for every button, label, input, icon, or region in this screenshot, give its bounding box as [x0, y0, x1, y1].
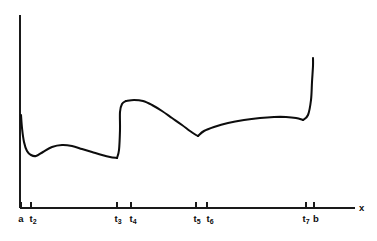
- tick-label-subscript-t3: 3: [118, 218, 122, 225]
- figure-container: at2t3t4t5t6t7b x: [0, 0, 377, 241]
- x-axis-tick-label-t4: t4: [129, 214, 136, 224]
- tick-label-subscript-t2: 2: [33, 218, 37, 225]
- function-curve-group: [21, 58, 313, 158]
- x-axis-label: x: [359, 203, 364, 213]
- x-axis-tick-label-t7: t7: [302, 214, 309, 224]
- curve-segment-5-steep-blowup: [303, 58, 313, 120]
- function-graph-svg: [0, 0, 377, 241]
- x-axis-tick-label-t2: t2: [29, 214, 36, 224]
- axes-group: [20, 15, 355, 208]
- curve-segment-2-vertical-jump: [117, 101, 126, 158]
- tick-label-base-a: a: [18, 213, 23, 224]
- x-axis-tick-label-t5: t5: [193, 214, 200, 224]
- curve-segment-4-shallow-rise: [198, 117, 303, 136]
- x-axis-tick-label-a: a: [18, 214, 23, 224]
- x-axis-tick-label-t6: t6: [206, 214, 213, 224]
- tick-label-base-b: b: [313, 213, 319, 224]
- x-axis-tick-label-b: b: [313, 214, 319, 224]
- x-axis-tick-group: [21, 202, 314, 208]
- curve-segment-3-arc-down-to-cusp: [126, 100, 198, 136]
- tick-label-subscript-t6: 6: [210, 218, 214, 225]
- tick-label-subscript-t5: 5: [197, 218, 201, 225]
- x-axis-tick-label-t3: t3: [114, 214, 121, 224]
- tick-label-subscript-t7: 7: [306, 218, 310, 225]
- tick-label-subscript-t4: 4: [133, 218, 137, 225]
- curve-segment-1-initial-drop-and-bump: [21, 115, 117, 158]
